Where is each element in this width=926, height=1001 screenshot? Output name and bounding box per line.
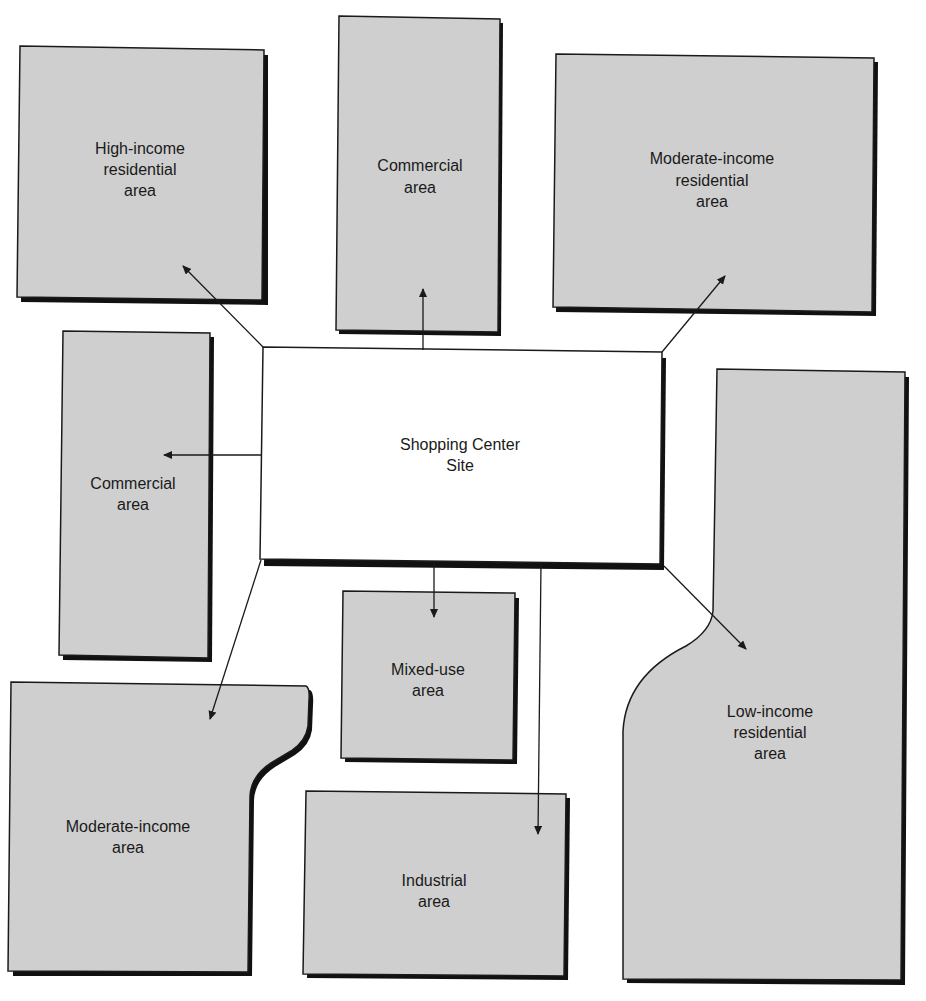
svg-text:area: area (754, 745, 786, 762)
svg-text:Commercial: Commercial (90, 475, 175, 492)
area-commercial-left: Commercial area (59, 331, 214, 662)
shopping-center-site: Shopping Center Site (260, 347, 666, 570)
svg-text:Shopping Center: Shopping Center (400, 436, 521, 453)
area-label: area (404, 179, 436, 196)
area-commercial-top: Commercial area (336, 16, 503, 336)
area-label: Commercial (90, 475, 175, 492)
svg-text:residential: residential (734, 724, 807, 741)
svg-text:Commercial: Commercial (377, 157, 462, 174)
area-label: Moderate-income (650, 150, 775, 167)
svg-text:area: area (404, 179, 436, 196)
svg-text:Moderate-income: Moderate-income (66, 818, 191, 835)
svg-text:Industrial: Industrial (402, 872, 467, 889)
area-label: Low-income (727, 703, 813, 720)
area-moderate-income: Moderate-income area (8, 682, 313, 976)
area-label: area (418, 893, 450, 910)
area-label: residential (676, 172, 749, 189)
area-label: area (117, 496, 149, 513)
area-label: area (412, 682, 444, 699)
area-label: Mixed-use (391, 661, 465, 678)
svg-text:area: area (124, 182, 156, 199)
svg-text:area: area (696, 193, 728, 210)
area-label: residential (104, 161, 177, 178)
shopping-center-site-diagram: High-income residential area Commercial … (0, 0, 926, 1001)
svg-text:Site: Site (446, 457, 474, 474)
svg-text:area: area (418, 893, 450, 910)
area-label: High-income (95, 140, 185, 157)
area-label: area (696, 193, 728, 210)
area-moderate-income-residential: Moderate-income residential area (553, 54, 878, 316)
svg-text:residential: residential (104, 161, 177, 178)
area-label: Commercial (377, 157, 462, 174)
area-low-income-residential: Low-income residential area (623, 369, 909, 985)
area-label: residential (734, 724, 807, 741)
site-label-line1: Shopping Center (400, 436, 521, 453)
svg-text:Mixed-use: Mixed-use (391, 661, 465, 678)
svg-text:residential: residential (676, 172, 749, 189)
area-high-income-residential: High-income residential area (17, 46, 268, 305)
svg-text:area: area (112, 839, 144, 856)
site-label-line2: Site (446, 457, 474, 474)
svg-text:area: area (412, 682, 444, 699)
area-label: area (112, 839, 144, 856)
area-industrial: Industrial area (303, 791, 570, 980)
svg-text:Moderate-income: Moderate-income (650, 150, 775, 167)
svg-text:High-income: High-income (95, 140, 185, 157)
area-label: Industrial (402, 872, 467, 889)
area-mixed-use: Mixed-use area (341, 591, 519, 764)
svg-text:Low-income: Low-income (727, 703, 813, 720)
area-label: Moderate-income (66, 818, 191, 835)
svg-text:area: area (117, 496, 149, 513)
area-label: area (754, 745, 786, 762)
area-label: area (124, 182, 156, 199)
